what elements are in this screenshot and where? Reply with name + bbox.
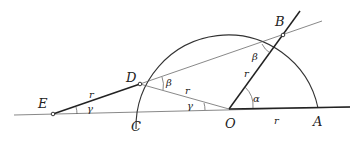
geometry-diagram: E D C O B A r r r r γ γ β β α	[0, 0, 359, 141]
segment-ED	[53, 84, 140, 114]
label-r-DO: r	[185, 85, 191, 96]
label-B: B	[274, 14, 285, 29]
label-D: D	[125, 70, 137, 85]
label-beta-B: β	[251, 51, 258, 62]
label-r-OA: r	[274, 115, 280, 126]
label-gamma-O: γ	[187, 100, 193, 111]
angle-beta-B-arc	[262, 44, 270, 53]
label-O: O	[225, 116, 236, 131]
line-DB-extended	[140, 21, 322, 84]
label-r-OB: r	[244, 68, 250, 79]
label-beta-D: β	[165, 77, 172, 88]
label-r-ED: r	[89, 89, 95, 100]
label-C: C	[131, 119, 141, 134]
point-E	[51, 112, 55, 116]
label-E: E	[37, 96, 48, 111]
label-alpha: α	[253, 93, 260, 104]
segment-OA	[229, 107, 350, 109]
angle-gamma-E-arc	[76, 107, 77, 114]
point-B	[281, 33, 285, 37]
label-A: A	[312, 114, 322, 129]
angle-beta-D-arc	[162, 77, 163, 90]
angle-alpha-arc	[245, 87, 253, 108]
label-gamma-E: γ	[87, 103, 93, 114]
segment-OB	[229, 11, 300, 109]
point-D	[138, 82, 142, 86]
angle-gamma-O-arc	[204, 103, 205, 110]
